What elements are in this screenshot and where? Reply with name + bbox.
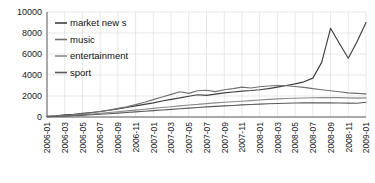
x-tick-label: 2007-05 (184, 122, 194, 153)
y-tick-label: 10000 (17, 7, 42, 17)
x-tick-label: 2006-05 (78, 122, 88, 153)
x-tick-label: 2007-07 (202, 122, 212, 153)
x-tick-label: 2008-03 (273, 122, 283, 153)
y-tick-label: 2000 (22, 91, 42, 101)
x-tick-label: 2006-07 (95, 122, 105, 153)
chart-canvas: 0200040006000800010000 2006-012006-03200… (0, 0, 375, 183)
x-tick-label: 2006-11 (131, 122, 141, 153)
x-tick-label: 2007-09 (220, 122, 230, 153)
x-tick-label: 2006-03 (60, 122, 70, 153)
y-axis-tick-labels: 0200040006000800010000 (17, 7, 42, 122)
y-tick-label: 4000 (22, 70, 42, 80)
legend-label-entertainment: entertainment (70, 50, 128, 61)
chart-legend: market new smusicentertainmentsport (55, 17, 128, 78)
x-tick-label: 2007-01 (149, 122, 159, 153)
x-tick-label: 2008-01 (255, 122, 265, 153)
x-tick-label: 2008-09 (326, 122, 336, 153)
y-tick-label: 8000 (22, 28, 42, 38)
y-tick-label: 0 (37, 112, 42, 122)
x-tick-label: 2008-07 (308, 122, 318, 153)
x-tick-label: 2009-01 (361, 122, 371, 153)
x-tick-label: 2007-11 (237, 122, 247, 153)
legend-label-market-new-s: market new s (70, 17, 127, 28)
x-axis-tick-labels: 2006-012006-032006-052006-072006-092006-… (42, 122, 371, 153)
x-tick-label: 2006-09 (113, 122, 123, 153)
x-tick-label: 2006-01 (42, 122, 52, 153)
legend-label-music: music (70, 34, 95, 45)
line-chart: 0200040006000800010000 2006-012006-03200… (0, 0, 375, 183)
x-tick-label: 2007-03 (166, 122, 176, 153)
x-tick-label: 2008-11 (344, 122, 354, 153)
x-tick-label: 2008-05 (290, 122, 300, 153)
legend-label-sport: sport (70, 67, 91, 78)
y-tick-label: 6000 (22, 49, 42, 59)
